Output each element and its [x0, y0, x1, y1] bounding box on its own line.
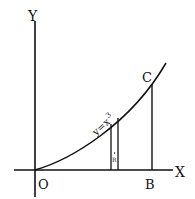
strip-label-dot — [114, 152, 115, 153]
diagram-canvas: Y X O B C y=x 3 R — [0, 0, 195, 199]
origin-label: O — [38, 177, 49, 192]
strip-label: R — [112, 156, 117, 163]
x-axis-label: X — [175, 164, 185, 180]
point-b-label: B — [145, 177, 155, 192]
y-axis-label: Y — [27, 8, 38, 24]
point-c-label: C — [142, 70, 152, 85]
